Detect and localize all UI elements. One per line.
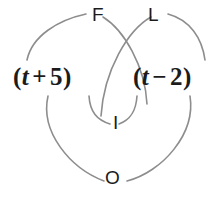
binomial-left-close-paren: ) <box>63 63 72 90</box>
outer-arc-left <box>47 96 104 181</box>
first-arc <box>27 14 86 60</box>
binomial-left-operator: + <box>29 63 50 90</box>
binomial-left-open-paren: ( <box>13 63 22 90</box>
outer-arc-right <box>127 96 191 181</box>
binomial-right-constant: 2 <box>170 63 183 90</box>
binomial-left-constant: 5 <box>50 63 63 90</box>
last-arc <box>168 14 205 60</box>
binomial-right-operator: − <box>149 63 170 90</box>
binomial-right: (t−2) <box>133 64 192 89</box>
inner-hook-right <box>119 96 137 124</box>
inner-hook-left <box>89 96 110 124</box>
foil-label-last: L <box>148 5 159 24</box>
inner-arc-right <box>103 17 147 104</box>
foil-label-first: F <box>92 5 104 24</box>
binomial-right-open-paren: ( <box>133 63 142 90</box>
foil-diagram: F L I O (t+5) (t−2) <box>0 0 222 200</box>
foil-label-outer: O <box>105 168 120 187</box>
binomial-right-close-paren: ) <box>183 63 192 90</box>
binomial-left: (t+5) <box>13 64 72 89</box>
foil-label-inner: I <box>113 113 118 132</box>
